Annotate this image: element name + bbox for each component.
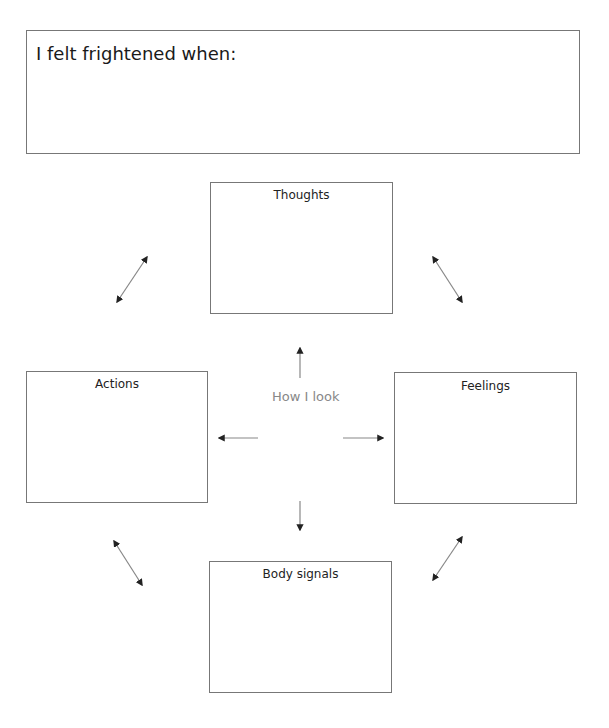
double-arrow-bottom-left-icon (114, 541, 142, 585)
double-arrow-top-right-icon (433, 257, 462, 302)
arrows-layer (0, 0, 609, 728)
double-arrow-top-left-icon (117, 257, 147, 302)
double-arrow-bottom-right-icon (433, 537, 462, 580)
